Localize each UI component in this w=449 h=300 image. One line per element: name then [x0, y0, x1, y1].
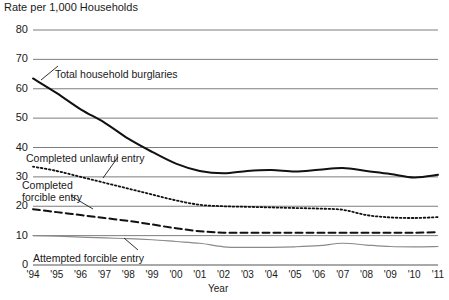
- series-annotation-label: Completed unlawful entry: [26, 152, 144, 164]
- series-annotation-label: Completed forcible entry: [22, 179, 82, 203]
- series-line: [33, 167, 438, 218]
- series-line: [33, 209, 438, 233]
- y-axis-tick-label: 60: [2, 83, 28, 94]
- y-axis-tick-label: 50: [2, 112, 28, 123]
- y-axis-tick-label: 70: [2, 53, 28, 64]
- x-axis-tick-label: '11: [423, 269, 449, 280]
- y-axis-tick-label: 80: [2, 24, 28, 35]
- series-line: [33, 236, 438, 248]
- x-axis-title: Year: [208, 283, 228, 295]
- gridlines: [33, 30, 438, 265]
- y-axis-tick-label: 40: [2, 142, 28, 153]
- series-annotation-label: Attempted forcible entry: [33, 252, 144, 264]
- y-axis-tick-label: 10: [2, 230, 28, 241]
- series-annotation-label: Total household burglaries: [55, 68, 178, 80]
